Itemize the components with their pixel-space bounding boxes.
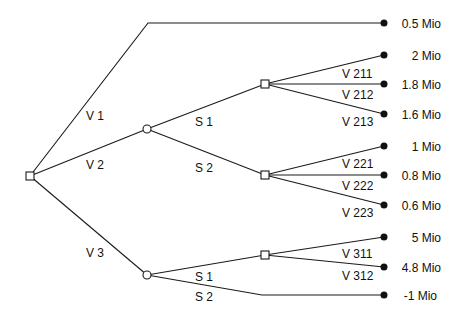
label-v212: V 212: [342, 88, 374, 102]
terminal-node-v223: [381, 202, 388, 209]
branch-labels: V 1 V 2 V 3 S 1 S 2 S 1 S 2 V 211 V 212 …: [86, 67, 374, 304]
decision-node-d2: [261, 171, 269, 179]
label-v3: V 3: [86, 246, 104, 260]
label-s2-top: S 2: [195, 161, 213, 175]
terminal-node-v211: [381, 52, 388, 59]
label-v1: V 1: [86, 109, 104, 123]
outcome-v222: 0.8 Mio: [402, 169, 442, 183]
outcome-v1: 0.5 Mio: [402, 17, 442, 31]
label-s1-top: S 1: [195, 115, 213, 129]
outcome-values: 0.5 Mio 2 Mio 1.8 Mio 1.6 Mio 1 Mio 0.8 …: [402, 17, 442, 303]
terminal-node-s2-bot: [381, 292, 388, 299]
outcome-s2-bot: -1 Mio: [404, 289, 438, 303]
edges: [30, 23, 384, 295]
chance-node-v3: [143, 271, 151, 279]
decision-tree-diagram: V 1 V 2 V 3 S 1 S 2 S 1 S 2 V 211 V 212 …: [0, 0, 464, 320]
terminal-node-v221: [381, 143, 388, 150]
outcome-v312: 4.8 Mio: [402, 261, 442, 275]
label-v223: V 223: [342, 206, 374, 220]
label-v2: V 2: [86, 158, 104, 172]
outcome-v211: 2 Mio: [412, 49, 442, 63]
edge-v3: [30, 176, 147, 275]
outcome-v221: 1 Mio: [412, 140, 442, 154]
terminal-node-v212: [381, 81, 388, 88]
terminal-node-v312: [381, 264, 388, 271]
label-v311: V 311: [342, 247, 373, 261]
terminal-node-v213: [381, 111, 388, 118]
root-decision-node: [26, 172, 34, 180]
label-s1-bot: S 1: [195, 270, 213, 284]
terminal-node-v1: [381, 20, 388, 27]
label-v211: V 211: [342, 67, 373, 81]
outcome-v311: 5 Mio: [412, 231, 442, 245]
label-v222: V 222: [342, 179, 374, 193]
label-s2-bot: S 2: [195, 290, 213, 304]
terminal-node-v311: [381, 234, 388, 241]
outcome-v212: 1.8 Mio: [402, 78, 442, 92]
edge-v1: [30, 23, 384, 176]
outcome-v223: 0.6 Mio: [402, 199, 442, 213]
nodes: [26, 80, 269, 279]
decision-node-d3: [261, 251, 269, 259]
terminal-node-v222: [381, 172, 388, 179]
chance-node-v2: [143, 125, 151, 133]
label-v221: V 221: [342, 157, 374, 171]
label-v213: V 213: [342, 115, 374, 129]
label-v312: V 312: [342, 269, 374, 283]
outcome-v213: 1.6 Mio: [402, 108, 442, 122]
terminal-nodes: [381, 20, 388, 299]
decision-node-d1: [261, 80, 269, 88]
